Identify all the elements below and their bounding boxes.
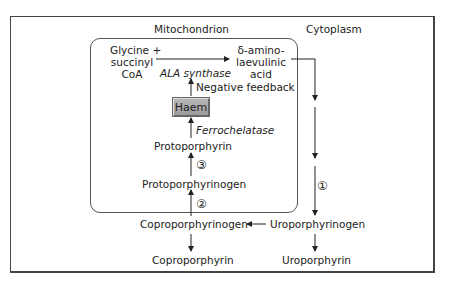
- pathway-arrows: [0, 0, 453, 291]
- arrow-ala-down: [291, 59, 315, 100]
